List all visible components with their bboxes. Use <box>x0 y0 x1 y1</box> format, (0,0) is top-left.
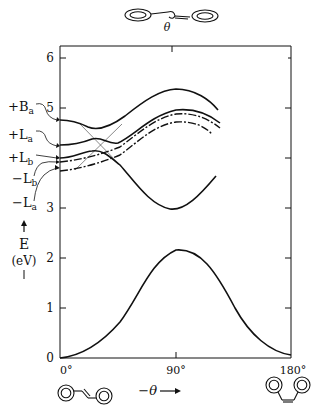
svg-text:1: 1 <box>46 301 54 315</box>
svg-text:(eV): (eV) <box>11 254 36 268</box>
x-tick-labels: 0° 90° 180° <box>60 364 306 377</box>
label-plus-La: +La <box>8 127 34 144</box>
stilbene-energy-chart: θ 6 5 3 2 1 0 0° 90° 180° <box>0 0 313 409</box>
diabatic-line-1 <box>80 124 120 165</box>
svg-text:0°: 0° <box>60 364 73 377</box>
label-plus-Lb: +Lb <box>8 150 34 167</box>
label-plus-Ba: +Ba <box>8 99 34 116</box>
label-minus-La: −La <box>12 195 38 212</box>
svg-text:180°: 180° <box>280 364 307 377</box>
theta-top-label: θ <box>164 21 171 34</box>
series-plus-Ba <box>60 89 218 129</box>
svg-text:0: 0 <box>46 351 54 365</box>
curves <box>60 89 291 358</box>
y-tick-labels: 6 5 3 2 1 0 <box>46 51 54 365</box>
svg-text:−θ: −θ <box>138 383 157 398</box>
twisted-stilbene-icon <box>125 9 218 22</box>
label-arrows <box>34 104 57 201</box>
trans-stilbene-icon <box>58 385 112 404</box>
series-plus-Lb <box>60 151 216 209</box>
series-ground-state <box>60 250 291 358</box>
series-minus-Lb <box>60 114 220 162</box>
label-minus-Lb: −Lb <box>12 171 38 188</box>
svg-text:2: 2 <box>46 251 54 265</box>
plot-frame <box>60 46 291 358</box>
svg-text:6: 6 <box>46 51 54 65</box>
svg-text:E: E <box>19 236 29 252</box>
svg-text:5: 5 <box>46 101 54 115</box>
y-axis-label: E (eV) <box>11 220 36 279</box>
svg-text:90°: 90° <box>166 364 186 377</box>
x-axis-label: −θ <box>138 383 181 398</box>
svg-text:3: 3 <box>46 201 54 215</box>
series-labels: +Ba +La +Lb −Lb −La <box>8 99 38 212</box>
cis-stilbene-icon <box>266 377 310 402</box>
series-minus-La <box>60 122 212 171</box>
